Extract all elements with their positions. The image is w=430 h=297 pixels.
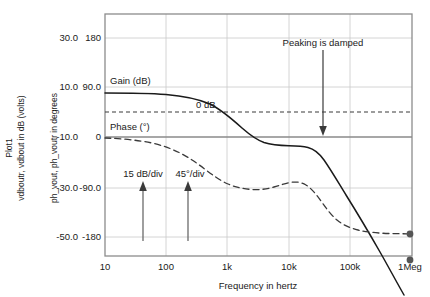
- y-left-tick-3: -30.0: [56, 182, 78, 193]
- deg-per-div-label: 45°/div: [175, 168, 204, 179]
- x-tick-1: 100: [158, 261, 174, 272]
- gain-curve-label: Gain (dB): [110, 75, 151, 86]
- figure-background: [0, 0, 430, 297]
- zero-db-label: 0 dB: [196, 99, 216, 110]
- y-right-tick-0: 180: [85, 32, 101, 43]
- x-tick-2: 1k: [222, 261, 232, 272]
- x-tick-5: 1Meg: [398, 261, 422, 272]
- y-right-tick-4: -180: [82, 231, 101, 242]
- peaking-annotation-label: Peaking is damped: [283, 37, 364, 48]
- plot-id-label: Plot1: [4, 138, 14, 158]
- x-axis-title: Frequency in hertz: [219, 280, 298, 291]
- x-tick-0: 10: [100, 261, 111, 272]
- db-per-div-label: 15 dB/div: [123, 168, 163, 179]
- phase-endpoint-marker: [407, 231, 414, 238]
- y-left-tick-0: 30.0: [60, 32, 79, 43]
- x-tick-4: 100k: [340, 261, 361, 272]
- y-left-tick-1: 10.0: [60, 81, 79, 92]
- y-left-tick-4: -50.0: [56, 231, 78, 242]
- y-right-tick-2: 0: [96, 131, 101, 142]
- bode-plot-figure: 30.0 10.0 -10.0 -30.0 -50.0 180 90.0 0 -…: [0, 0, 430, 297]
- y-left-axis-title: vdboutr, vdbout in dB (volts): [16, 95, 26, 201]
- y-right-axis-title: ph_vout, ph_voutr in degrees: [49, 93, 59, 203]
- x-tick-3: 10k: [281, 261, 297, 272]
- y-right-tick-1: 90.0: [83, 81, 102, 92]
- bode-plot-svg: 30.0 10.0 -10.0 -30.0 -50.0 180 90.0 0 -…: [0, 0, 430, 297]
- y-left-tick-2: -10.0: [56, 131, 78, 142]
- phase-curve-label: Phase (°): [110, 121, 150, 132]
- y-right-tick-3: -90.0: [79, 182, 101, 193]
